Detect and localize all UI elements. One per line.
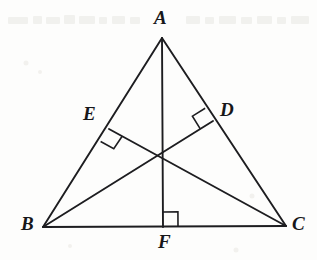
right-angle-at-D bbox=[192, 108, 205, 129]
altitude-BD bbox=[43, 121, 213, 227]
vertex-label-a: A bbox=[154, 8, 167, 27]
vertex-label-b: B bbox=[21, 214, 34, 233]
scan-smudge bbox=[241, 17, 252, 24]
scan-smudge bbox=[205, 17, 214, 24]
segment-layer bbox=[43, 38, 286, 227]
vertex-label-e: E bbox=[83, 104, 96, 123]
scan-smudge bbox=[64, 15, 75, 24]
scan-smudge bbox=[79, 16, 95, 24]
side-AC bbox=[162, 38, 286, 226]
scan-smudge bbox=[277, 17, 286, 24]
scan-artifact-layer bbox=[8, 15, 309, 253]
scan-smudge bbox=[186, 16, 200, 24]
right-angle-at-E bbox=[101, 136, 123, 148]
scan-speck bbox=[250, 194, 255, 199]
scan-smudge bbox=[99, 17, 107, 24]
right-angle-layer bbox=[101, 108, 206, 227]
vertex-label-c: C bbox=[292, 214, 305, 233]
scan-smudge bbox=[257, 16, 272, 24]
scan-speck bbox=[38, 70, 42, 74]
scan-smudge bbox=[130, 17, 140, 24]
vertex-label-d: D bbox=[220, 100, 234, 119]
scan-speck bbox=[68, 244, 72, 248]
altitude-CE bbox=[109, 129, 286, 226]
side-AB bbox=[43, 38, 162, 227]
geometry-figure: A B C D E F bbox=[0, 0, 317, 260]
scan-smudge bbox=[33, 16, 42, 24]
vertex-label-f: F bbox=[158, 232, 171, 251]
scan-smudge bbox=[112, 16, 125, 24]
scan-smudge bbox=[46, 17, 60, 24]
scan-smudge bbox=[219, 16, 236, 24]
right-angle-at-F bbox=[163, 212, 178, 227]
side-BC bbox=[43, 226, 286, 227]
scan-smudge bbox=[291, 16, 309, 24]
scan-speck bbox=[234, 248, 239, 253]
scan-speck bbox=[24, 61, 29, 66]
scan-smudge bbox=[8, 17, 28, 24]
geometry-canvas bbox=[0, 0, 317, 260]
altitude-AF bbox=[162, 38, 163, 227]
